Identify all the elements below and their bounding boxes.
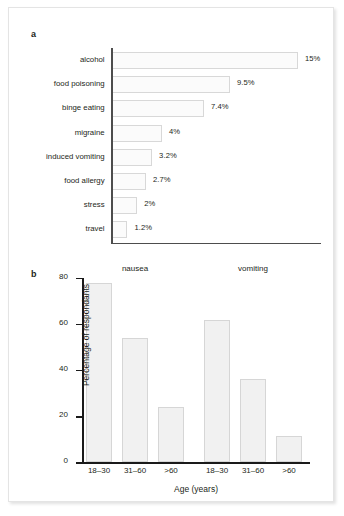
panel-a-bar-row: stress2% <box>113 197 323 214</box>
panel-a-value-label: 9.5% <box>237 78 255 87</box>
panel-a-bar <box>113 76 230 93</box>
panel-b-category-label: 31–60 <box>233 466 273 475</box>
panel-b-bar <box>240 379 266 462</box>
panel-a-bar-row: food poisoning9.5% <box>113 76 323 93</box>
panel-a-bar-row: travel1.2% <box>113 221 323 238</box>
panel-a-value-label: 2% <box>144 199 155 208</box>
panel-b-category-label: 18–30 <box>197 466 237 475</box>
panel-a-letter: a <box>31 29 36 39</box>
panel-b-y-tick-label: 80 <box>59 272 68 281</box>
figure-root: a alcohol15%food poisoning9.5%binge eati… <box>0 0 344 516</box>
panel-a-bar <box>113 52 298 69</box>
panel-a-bar-row: alcohol15% <box>113 52 323 69</box>
panel-a-category-label: alcohol <box>9 55 105 64</box>
panel-a-plot-area: alcohol15%food poisoning9.5%binge eating… <box>111 48 321 244</box>
panel-a-category-label: travel <box>9 224 105 233</box>
panel-b-y-tick: 0 <box>76 462 82 463</box>
panel-b-group-title: nausea <box>86 264 184 273</box>
panel-b-bar <box>204 320 230 463</box>
panel-b-x-axis-line <box>82 462 310 464</box>
panel-a-value-label: 2.7% <box>153 175 171 184</box>
panel-b-plot-area: 020406080 18–3031–60>6018–3031–60>60 nau… <box>82 278 310 464</box>
panel-a-value-label: 1.2% <box>134 223 152 232</box>
panel-a-bar <box>113 100 204 117</box>
panel-b-y-tick: 20 <box>76 416 82 417</box>
panel-a-bar-row: induced vomiting3.2% <box>113 149 323 166</box>
panel-a-category-label: migraine <box>9 128 105 137</box>
panel-a-category-label: food poisoning <box>9 79 105 88</box>
panel-b-category-label: 18–30 <box>79 466 119 475</box>
panel-b-x-axis-title: Age (years) <box>82 484 310 494</box>
panel-a-bar <box>113 125 162 142</box>
panel-a-value-label: 7.4% <box>211 102 229 111</box>
panel-a-category-label: induced vomiting <box>9 152 105 161</box>
panel-b-group-title: vomiting <box>204 264 302 273</box>
panel-a-bar <box>113 197 138 214</box>
panel-b-y-tick-label: 40 <box>59 364 68 373</box>
panel-b-category-label: >60 <box>269 466 309 475</box>
panel-b-y-tick-label: 60 <box>59 318 68 327</box>
panel-a-bar-row: food allergy2.7% <box>113 173 323 190</box>
panel-a-bar-row: migraine4% <box>113 125 323 142</box>
panel-a-category-label: stress <box>9 200 105 209</box>
panel-a-bar <box>113 149 153 166</box>
panel-b-y-axis-title: Percentage of respondants <box>81 275 91 395</box>
panel-b-bar <box>158 407 184 462</box>
panel-b: b 020406080 18–3031–60>6018–3031–60>60 n… <box>9 256 335 503</box>
panel-b-category-label: >60 <box>151 466 191 475</box>
figure-page-frame: a alcohol15%food poisoning9.5%binge eati… <box>8 7 334 502</box>
panel-a-x-axis-line <box>111 243 321 245</box>
panel-a-bar-row: binge eating7.4% <box>113 100 323 117</box>
panel-b-category-label: 31–60 <box>115 466 155 475</box>
panel-a-value-label: 3.2% <box>159 151 177 160</box>
panel-a-category-label: food allergy <box>9 176 105 185</box>
panel-a-value-label: 4% <box>169 127 180 136</box>
panel-b-bar <box>276 436 302 463</box>
panel-a-bar <box>113 221 128 238</box>
panel-b-y-tick-label: 20 <box>59 410 68 419</box>
panel-b-y-tick-label: 0 <box>64 456 68 465</box>
panel-a-bar <box>113 173 146 190</box>
panel-b-bar <box>122 338 148 462</box>
panel-b-letter: b <box>31 269 37 279</box>
panel-a-category-label: binge eating <box>9 103 105 112</box>
panel-a: a alcohol15%food poisoning9.5%binge eati… <box>9 8 335 256</box>
panel-a-value-label: 15% <box>305 54 321 63</box>
